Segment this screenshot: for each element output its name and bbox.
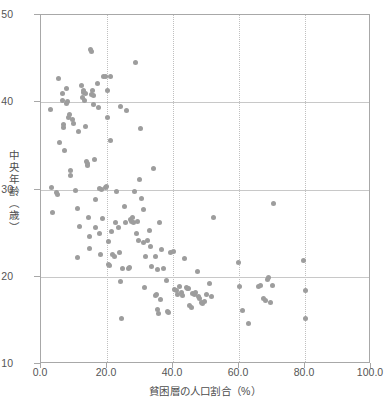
data-point xyxy=(246,321,251,326)
data-point xyxy=(97,231,102,236)
gridline-vertical xyxy=(305,15,306,362)
x-tick-mark xyxy=(172,363,173,368)
data-point xyxy=(155,267,160,272)
data-point xyxy=(195,269,200,274)
data-point xyxy=(75,255,80,260)
scatter-chart: 1020304050 0.020.040.060.080.0100.0 貧困層の… xyxy=(0,0,385,406)
data-point xyxy=(60,91,65,96)
data-point xyxy=(211,215,216,220)
data-point xyxy=(204,292,209,297)
x-tick-label: 0.0 xyxy=(17,367,63,378)
y-tick-label: 10 xyxy=(0,358,13,368)
data-point xyxy=(105,115,110,120)
y-tick-label: 20 xyxy=(0,271,13,281)
data-point xyxy=(157,220,162,225)
data-point xyxy=(92,157,97,162)
data-point xyxy=(65,99,70,104)
y-tick-mark xyxy=(34,101,40,102)
data-point xyxy=(124,108,129,113)
data-point xyxy=(61,125,66,130)
data-point xyxy=(142,285,147,290)
y-tick-mark xyxy=(34,276,40,277)
data-point xyxy=(209,294,214,299)
data-point xyxy=(119,316,124,321)
data-point xyxy=(91,93,96,98)
data-point xyxy=(68,173,73,178)
x-tick-label: 60.0 xyxy=(215,367,261,378)
data-point xyxy=(73,188,78,193)
data-point xyxy=(48,107,53,112)
data-point xyxy=(108,74,113,79)
data-point xyxy=(90,88,95,93)
y-tick-mark xyxy=(34,189,40,190)
x-tick-mark xyxy=(370,363,371,368)
data-point xyxy=(207,281,212,286)
data-point xyxy=(149,264,154,269)
data-point xyxy=(303,316,308,321)
data-point xyxy=(55,192,60,197)
data-point xyxy=(266,275,271,280)
data-point xyxy=(120,266,125,271)
y-tick-mark xyxy=(34,14,40,15)
data-point xyxy=(108,138,113,143)
y-axis-title: 中央年齢（歳） xyxy=(4,150,19,234)
data-point xyxy=(96,105,101,110)
gridline-vertical xyxy=(173,15,174,362)
data-point xyxy=(158,297,163,302)
data-point xyxy=(107,263,112,268)
y-tick-label: 40 xyxy=(0,96,13,106)
data-point xyxy=(118,104,123,109)
data-point xyxy=(64,86,69,91)
data-point xyxy=(50,210,55,215)
x-axis-title: 貧困層の人口割合（%） xyxy=(40,383,370,398)
data-point xyxy=(166,310,171,315)
data-point xyxy=(114,189,119,194)
data-point xyxy=(117,250,122,255)
data-point xyxy=(153,254,158,259)
data-point xyxy=(258,283,263,288)
data-point xyxy=(100,216,105,221)
data-point xyxy=(103,74,108,79)
y-tick-label: 50 xyxy=(0,9,13,19)
data-point xyxy=(154,292,159,297)
data-point xyxy=(161,266,166,271)
x-tick-label: 80.0 xyxy=(281,367,327,378)
data-point xyxy=(106,239,111,244)
data-point xyxy=(133,60,138,65)
data-point xyxy=(109,229,114,234)
data-point xyxy=(77,224,82,229)
data-point xyxy=(62,148,67,153)
data-point xyxy=(134,231,139,236)
data-point xyxy=(86,215,91,220)
x-tick-mark xyxy=(238,363,239,368)
x-tick-label: 100.0 xyxy=(347,367,385,378)
data-point xyxy=(136,238,141,243)
data-point xyxy=(122,204,127,209)
data-point xyxy=(240,308,245,313)
gridline-horizontal xyxy=(41,277,369,278)
data-point xyxy=(137,177,142,182)
data-point xyxy=(89,49,94,54)
data-point xyxy=(202,299,207,304)
data-point xyxy=(186,286,191,291)
data-point xyxy=(138,126,143,131)
data-point xyxy=(76,129,81,134)
data-point xyxy=(116,225,121,230)
data-point xyxy=(71,121,76,126)
gridline-horizontal xyxy=(41,190,369,191)
x-tick-label: 40.0 xyxy=(149,367,195,378)
data-point xyxy=(87,234,92,239)
data-point xyxy=(57,140,62,145)
data-point xyxy=(147,228,152,233)
data-point xyxy=(303,288,308,293)
data-point xyxy=(98,252,103,257)
data-point xyxy=(87,246,92,251)
data-point xyxy=(236,260,241,265)
data-point xyxy=(91,102,96,107)
data-point xyxy=(156,311,161,316)
data-point xyxy=(145,238,150,243)
data-point xyxy=(159,247,164,252)
data-point xyxy=(112,254,117,259)
data-point xyxy=(105,88,110,93)
data-point xyxy=(180,293,185,298)
